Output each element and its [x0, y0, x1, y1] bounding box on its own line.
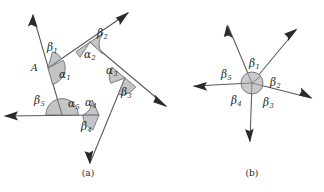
label-b-beta-4: β4 — [230, 94, 242, 108]
arrowhead-b-lower-right — [299, 88, 313, 99]
arrowhead-lower-right — [153, 94, 167, 107]
arrowhead-upper-left — [28, 14, 38, 28]
geometry-figure: A α1 α2 α3 α4 α5 β1 β2 β3 β4 β5 (a) — [0, 0, 324, 192]
arrowhead-b-left — [193, 82, 207, 91]
caption-b: (b) — [246, 168, 259, 178]
label-b-beta-1: β1 — [248, 57, 260, 71]
label-alpha-1: α1 — [59, 68, 71, 82]
vertex-label-A: A — [30, 62, 38, 73]
figure-canvas: A α1 α2 α3 α4 α5 β1 β2 β3 β4 β5 (a) — [0, 0, 324, 192]
caption-a: (a) — [82, 168, 94, 178]
arrowhead-b-upper-right — [284, 29, 297, 42]
arrowhead-b-lower — [245, 129, 254, 143]
panel-b: β1 β2 β3 β4 β5 (b) — [193, 25, 313, 179]
label-b-beta-5: β5 — [220, 68, 232, 82]
panel-a: A α1 α2 α3 α4 α5 β1 β2 β3 β4 β5 (a) — [4, 12, 167, 178]
label-beta-5: β5 — [33, 94, 45, 108]
label-alpha-2: α2 — [84, 48, 96, 62]
arrowhead-upper-right — [116, 12, 129, 25]
label-b-beta-3: β3 — [262, 96, 274, 110]
